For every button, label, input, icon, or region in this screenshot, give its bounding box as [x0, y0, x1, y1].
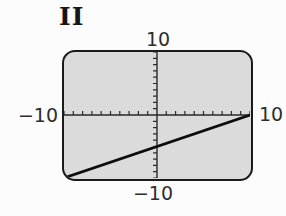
graph-plot	[64, 52, 250, 178]
figure-label: II	[59, 3, 84, 31]
window-xmax-label: 10	[259, 105, 283, 124]
window-ymin-label: −10	[133, 184, 173, 203]
window-xmin-label: −10	[0, 106, 58, 125]
textbook-figure: II 10 −10 10 −10	[0, 0, 286, 216]
calculator-screen	[62, 50, 253, 181]
window-ymax-label: 10	[146, 30, 170, 49]
